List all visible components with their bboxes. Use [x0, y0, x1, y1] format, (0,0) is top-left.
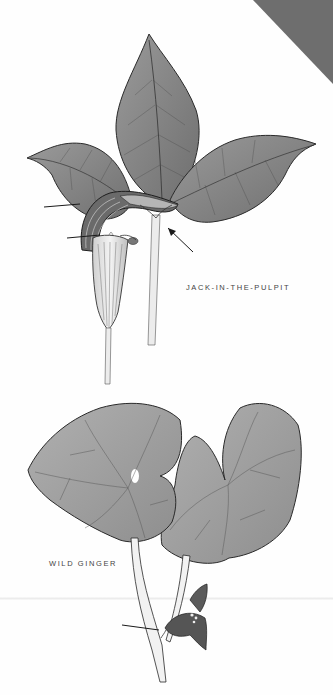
ginger-leaf-right — [161, 403, 301, 563]
jack-in-the-pulpit-label: JACK-IN-THE-PULPIT — [186, 283, 290, 292]
jack-in-the-pulpit-drawing — [27, 34, 316, 384]
jack-flower-stalk — [105, 328, 111, 384]
wild-ginger-drawing — [28, 403, 301, 682]
botanical-illustration — [0, 0, 333, 695]
ginger-stem-left — [131, 538, 166, 682]
illustration-page: JACK-IN-THE-PULPIT WILD GINGER — [0, 0, 333, 695]
wild-ginger-label: WILD GINGER — [49, 559, 117, 568]
jack-leaf-stalk — [148, 215, 160, 345]
ginger-leaf-left — [28, 403, 182, 542]
jack-spathe-tube — [93, 235, 128, 330]
